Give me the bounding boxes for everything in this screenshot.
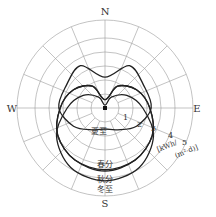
winter-solstice-label: 冬至	[97, 184, 113, 194]
summer-solstice-label: 夏至	[91, 127, 107, 136]
tick-label-1: 1	[123, 113, 128, 122]
spring-equinox-label: 春分	[97, 159, 113, 169]
east-label: E	[193, 103, 200, 114]
grid-spoke	[71, 27, 99, 95]
center-marker	[103, 106, 107, 110]
figure-caption-cropped	[0, 205, 216, 217]
grid-spoke	[24, 74, 92, 102]
grid-spoke	[43, 46, 95, 98]
grid-spoke	[110, 27, 138, 95]
tick-label-5: 5	[182, 138, 187, 147]
grid-spoke	[115, 46, 167, 98]
autumn-equinox-label: 秋分	[97, 174, 113, 184]
tick-label-2: 2	[137, 120, 142, 129]
polar-radiation-chart: N S W E 1 2 3 4 5 [kWh/ (m²·d)] 夏至 春分 秋分…	[0, 0, 216, 217]
tick-label-4: 4	[168, 131, 173, 140]
grid-spoke	[118, 74, 186, 102]
tick-label-3: 3	[151, 124, 156, 133]
north-label: N	[101, 6, 110, 17]
grid-spoke	[43, 118, 95, 170]
west-label: W	[7, 103, 18, 114]
